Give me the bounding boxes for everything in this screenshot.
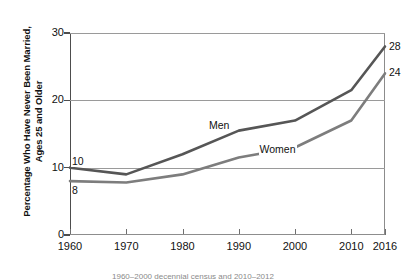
series-line-men <box>70 46 385 174</box>
y-tick-label-0: 0 <box>34 228 64 240</box>
series-layer <box>70 33 385 235</box>
source-caption: 1960–2000 decennial census and 2010–2012 <box>0 272 418 280</box>
y-tick-label-20: 20 <box>34 93 64 105</box>
source-caption-text: 1960–2000 decennial census and 2010–2012 <box>112 272 274 280</box>
x-tick-label-2016: 2016 <box>362 240 408 252</box>
x-tick-2016 <box>385 229 386 235</box>
y-tick-label-30: 30 <box>34 26 64 38</box>
end-value-men: 28 <box>389 40 401 52</box>
x-tick-label-1980: 1980 <box>160 240 206 252</box>
x-tick-label-1970: 1970 <box>103 240 149 252</box>
start-value-men: 10 <box>71 155 85 167</box>
chart-figure: Percentage Who Have Never Been Married, … <box>0 0 418 280</box>
series-label-men: Men <box>208 119 230 131</box>
plot-area: Men1028Women824 <box>70 33 385 235</box>
x-tick-label-2000: 2000 <box>272 240 318 252</box>
x-tick-label-1990: 1990 <box>216 240 262 252</box>
start-value-women: 8 <box>71 184 79 196</box>
y-tick-label-10: 10 <box>34 161 64 173</box>
series-label-women: Women <box>259 143 297 155</box>
end-value-women: 24 <box>389 66 401 78</box>
x-tick-label-1960: 1960 <box>47 240 93 252</box>
